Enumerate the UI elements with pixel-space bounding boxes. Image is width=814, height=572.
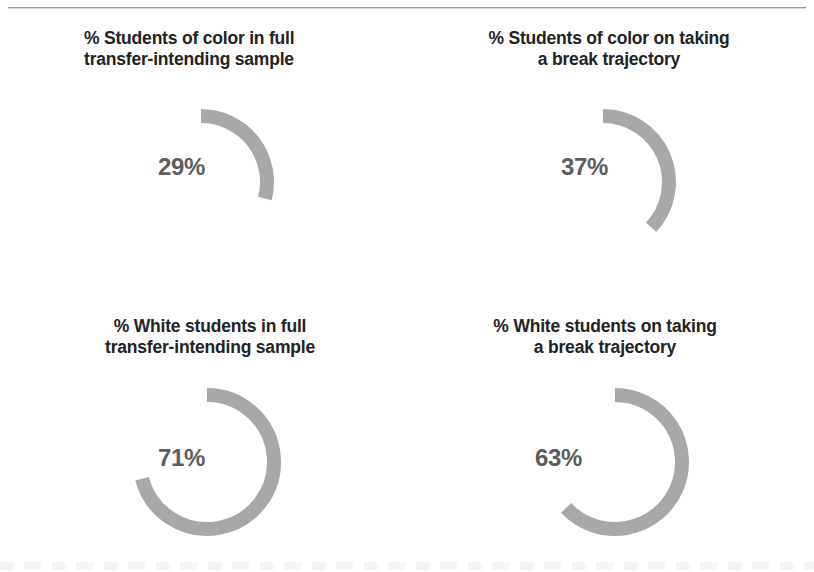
scan-artifact: [0, 562, 814, 570]
gauge-arc: [201, 116, 267, 198]
gauge-value-label: 29%: [158, 153, 205, 181]
gauge-title: % White students in full transfer-intend…: [60, 316, 360, 359]
header-rule-shadow: [8, 8, 806, 9]
gauge-panel-students-of-color-taking-a-break: % Students of color on taking a break tr…: [444, 28, 774, 278]
gauge-value-label: 63%: [535, 444, 582, 472]
gauge-title: % Students of color in full transfer-int…: [84, 28, 384, 71]
gauge-arc: [603, 116, 669, 227]
gauge-arc: [566, 395, 682, 529]
donut-gauge-29: [104, 86, 314, 276]
gauge-panel-white-students-taking-a-break: % White students on taking a break traje…: [440, 316, 770, 566]
gauge-panel-white-students-full-sample: % White students in full transfer-intend…: [60, 316, 360, 566]
donut-gauge-71: [117, 372, 297, 552]
gauge-title: % White students on taking a break traje…: [440, 316, 770, 359]
gauge-panel-students-of-color-full-sample: % Students of color in full transfer-int…: [84, 28, 384, 278]
figure-canvas: % Students of color in full transfer-int…: [0, 0, 814, 572]
donut-gauge-37: [506, 86, 716, 276]
gauge-value-label: 71%: [158, 444, 205, 472]
gauge-value-label: 37%: [561, 153, 608, 181]
gauge-title: % Students of color on taking a break tr…: [444, 28, 774, 71]
